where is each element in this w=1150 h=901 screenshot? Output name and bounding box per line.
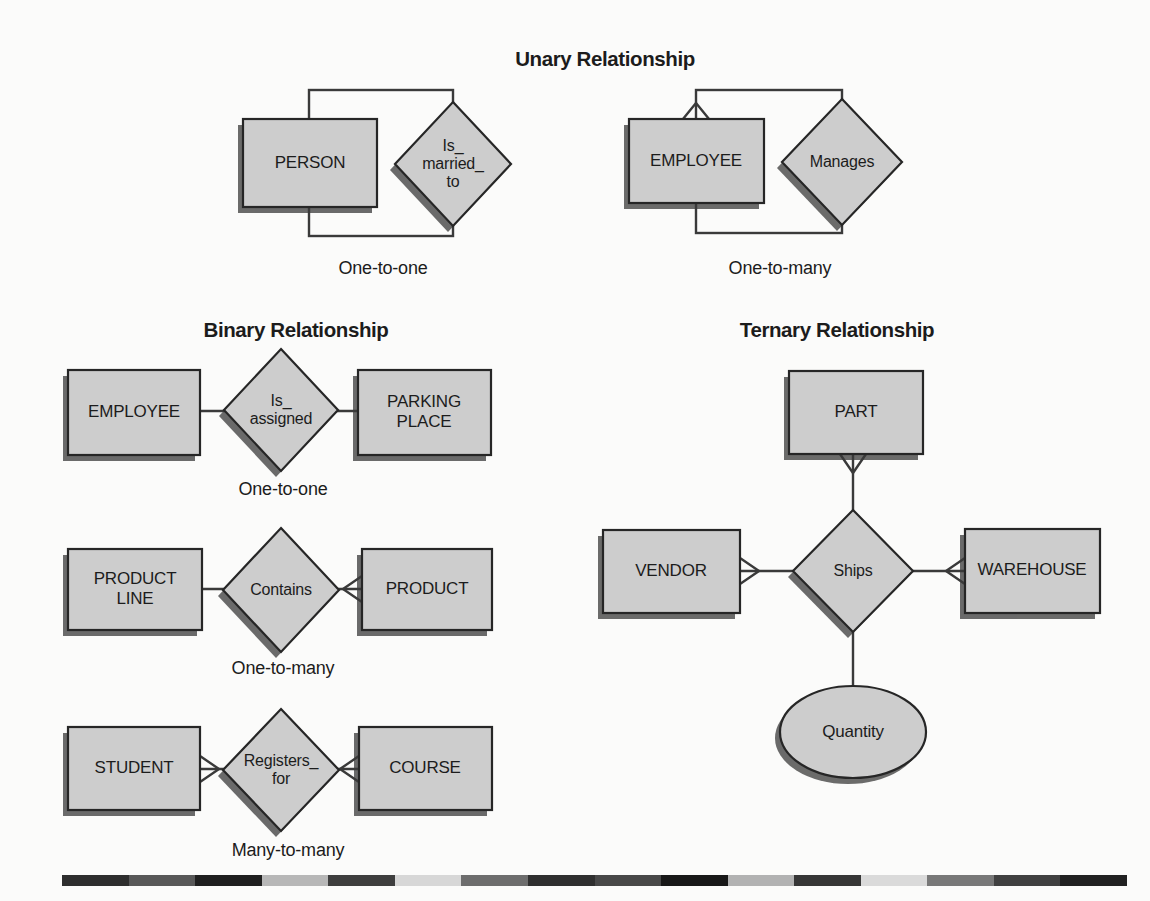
decorative-bottom-bar — [62, 875, 1127, 886]
decor-bar-segment — [62, 875, 129, 886]
decor-bar-segment — [1060, 875, 1127, 886]
decor-bar-segment — [595, 875, 662, 886]
decor-bar-segment — [794, 875, 861, 886]
relationship-is-married-to-diamond — [395, 102, 511, 226]
entity-parking-place-box — [358, 370, 491, 455]
decor-bar-segment — [728, 875, 795, 886]
attribute-quantity-ellipse — [780, 686, 926, 778]
entity-employee-binary-box — [68, 370, 200, 455]
decor-bar-segment — [395, 875, 462, 886]
diagram-canvas — [0, 0, 1150, 901]
entity-product-line-box — [68, 549, 202, 630]
decor-bar-segment — [461, 875, 528, 886]
entity-part-box — [789, 371, 923, 454]
entity-warehouse-box — [965, 529, 1100, 613]
relationship-is-assigned-diamond — [224, 349, 338, 471]
entity-course-box — [359, 727, 492, 810]
er-notation-figure: Unary Relationship Binary Relationship T… — [0, 0, 1150, 901]
decor-bar-segment — [994, 875, 1061, 886]
decor-bar-segment — [661, 875, 728, 886]
entity-product-box — [362, 549, 492, 630]
entity-employee-unary-box — [629, 119, 764, 203]
relationship-contains-diamond — [223, 528, 339, 652]
entity-person-box — [243, 119, 377, 207]
decor-bar-segment — [129, 875, 196, 886]
entity-student-box — [68, 727, 200, 810]
decor-bar-segment — [861, 875, 928, 886]
relationship-ships-diamond — [793, 510, 913, 632]
shape-shadows — [63, 105, 1095, 837]
entity-vendor-box — [603, 530, 740, 613]
relationship-registers-for-diamond — [223, 709, 339, 831]
decor-bar-segment — [528, 875, 595, 886]
decor-bar-segment — [328, 875, 395, 886]
relationship-manages-diamond — [782, 99, 902, 225]
entity-shapes — [68, 99, 1100, 831]
decor-bar-segment — [195, 875, 262, 886]
decor-bar-segment — [927, 875, 994, 886]
decor-bar-segment — [262, 875, 329, 886]
